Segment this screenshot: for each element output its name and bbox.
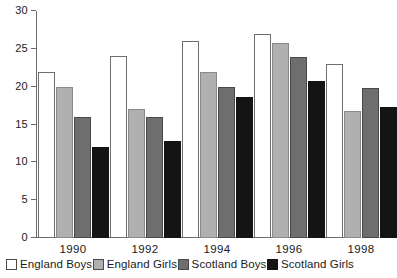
- y-tick-label: 0: [22, 231, 28, 243]
- y-tick-label: 15: [15, 118, 28, 130]
- y-tick-mark: [31, 237, 36, 238]
- bar-1998-scotland-girls: [380, 107, 397, 238]
- bar-1990-scotland-girls: [92, 147, 109, 238]
- chart-legend: England BoysEngland GirlsScotland BoysSc…: [6, 258, 354, 270]
- bar-1990-england-girls: [56, 87, 73, 238]
- bar-1996-scotland-boys: [290, 57, 307, 238]
- y-tick-mark: [31, 161, 36, 162]
- bar-1996-england-girls: [272, 43, 289, 238]
- bar-1990-england-boys: [38, 72, 55, 238]
- y-tick-mark: [31, 199, 36, 200]
- legend-item-scotland-girls[interactable]: Scotland Girls: [267, 258, 354, 270]
- y-tick-mark: [31, 48, 36, 49]
- legend-swatch-icon: [6, 259, 17, 270]
- bar-1994-england-boys: [182, 41, 199, 238]
- bar-1996-scotland-girls: [308, 81, 325, 238]
- x-tick-label-1992: 1992: [132, 243, 159, 255]
- bar-group-1994: 1994: [181, 11, 253, 238]
- plot-area: 051015202530 19901992199419961998: [36, 11, 352, 238]
- bar-1992-scotland-boys: [146, 117, 163, 238]
- bar-group-1996: 1996: [253, 11, 325, 238]
- legend-label: Scotland Girls: [281, 258, 354, 270]
- legend-label: England Boys: [20, 258, 92, 270]
- legend-swatch-icon: [178, 259, 189, 270]
- y-tick-label: 25: [15, 42, 28, 54]
- bar-group-1998: 1998: [325, 11, 397, 238]
- bar-1990-scotland-boys: [74, 117, 91, 238]
- y-tick-label: 20: [15, 80, 28, 92]
- bar-1998-england-boys: [326, 64, 343, 238]
- bar-1992-england-girls: [128, 109, 145, 238]
- x-tick-label-1994: 1994: [204, 243, 231, 255]
- bar-groups: 19901992199419961998: [37, 11, 352, 238]
- legend-item-england-girls[interactable]: England Girls: [93, 258, 177, 270]
- legend-swatch-icon: [93, 259, 104, 270]
- bar-group-1992: 1992: [109, 11, 181, 238]
- x-tick-label-1996: 1996: [276, 243, 303, 255]
- bar-1992-scotland-girls: [164, 141, 181, 238]
- bar-1994-scotland-girls: [236, 97, 253, 238]
- y-tick-mark: [31, 10, 36, 11]
- y-tick-label: 10: [15, 155, 28, 167]
- bar-1998-england-girls: [344, 111, 361, 238]
- y-tick-label: 5: [22, 193, 28, 205]
- bar-1996-england-boys: [254, 34, 271, 238]
- legend-item-england-boys[interactable]: England Boys: [6, 258, 92, 270]
- legend-label: England Girls: [107, 258, 177, 270]
- legend-label: Scotland Boys: [192, 258, 267, 270]
- bar-1994-england-girls: [200, 72, 217, 238]
- legend-swatch-icon: [267, 259, 278, 270]
- y-tick-mark: [31, 124, 36, 125]
- legend-item-scotland-boys[interactable]: Scotland Boys: [178, 258, 267, 270]
- y-tick-mark: [31, 86, 36, 87]
- bar-1992-england-boys: [110, 56, 127, 238]
- bar-group-1990: 1990: [37, 11, 109, 238]
- x-tick-label-1990: 1990: [60, 243, 87, 255]
- bar-1998-scotland-boys: [362, 88, 379, 238]
- bar-1994-scotland-boys: [218, 87, 235, 238]
- y-tick-label: 30: [15, 4, 28, 16]
- x-tick-label-1998: 1998: [348, 243, 375, 255]
